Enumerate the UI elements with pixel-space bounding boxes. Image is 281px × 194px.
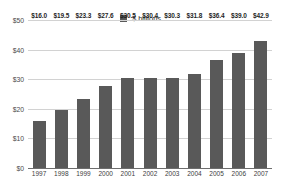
bar-value-label: $19.5 [53,12,69,19]
y-axis-tick-label: $30 [13,76,24,83]
bar-value-label: $16.0 [31,12,47,19]
x-axis-tick-label: 2007 [250,170,272,177]
y-axis-tick-label: $20 [13,105,24,112]
bar-value-label: $30.3 [164,12,180,19]
bar[interactable]: $36.4 [210,60,223,168]
x-axis-tick-label: 2001 [117,170,139,177]
bar-value-label: $31.8 [187,12,203,19]
bar[interactable]: $42.9 [254,41,267,168]
bar[interactable]: $30.5 [121,78,134,168]
plot-area: $0$10$20$30$40$50 $16.0$19.5$23.3$27.6$3… [28,20,272,168]
bar-chart: $ billions $0$10$20$30$40$50 $16.0$19.5$… [0,0,281,194]
bar-value-label: $27.6 [98,12,114,19]
bar[interactable]: $30.3 [166,78,179,168]
bar-slot: $30.5 [117,20,139,168]
bar-value-label: $42.9 [253,12,269,19]
bar[interactable]: $16.0 [33,121,46,168]
bar-value-label: $30.4 [142,12,158,19]
bar-slot: $39.0 [228,20,250,168]
bar[interactable]: $39.0 [232,53,245,168]
x-axis-tick-label: 2004 [183,170,205,177]
bar-slot: $23.3 [72,20,94,168]
bar-slot: $16.0 [28,20,50,168]
bar[interactable]: $30.4 [144,78,157,168]
bar-slot: $30.4 [139,20,161,168]
bar-slot: $42.9 [250,20,272,168]
y-axis-tick-label: $40 [13,46,24,53]
x-axis-tick-label: 1999 [72,170,94,177]
bar[interactable]: $27.6 [99,86,112,168]
bar[interactable]: $19.5 [55,110,68,168]
bar-slot: $31.8 [183,20,205,168]
y-axis-tick-label: $50 [13,17,24,24]
bar-value-label: $39.0 [231,12,247,19]
axis-baseline: $0 [28,168,272,169]
bar-value-label: $23.3 [76,12,92,19]
y-axis-tick-label: $10 [13,135,24,142]
bar-slot: $30.3 [161,20,183,168]
x-axis-tick-label: 1997 [28,170,50,177]
x-axis-tick-label: 2006 [228,170,250,177]
bar[interactable]: $31.8 [188,74,201,168]
bar-series-dollar-billions: $16.0$19.5$23.3$27.6$30.5$30.4$30.3$31.8… [28,20,272,168]
x-axis-tick-label: 2000 [95,170,117,177]
bar-slot: $19.5 [50,20,72,168]
x-axis-tick-labels: 1997199819992000200120022003200420052006… [28,170,272,177]
y-axis-tick-label: $0 [16,165,24,172]
bar-slot: $27.6 [95,20,117,168]
bar-value-label: $30.5 [120,12,136,19]
x-axis-tick-label: 2002 [139,170,161,177]
x-axis-tick-label: 2003 [161,170,183,177]
x-axis-tick-label: 1998 [50,170,72,177]
bar[interactable]: $23.3 [77,99,90,168]
x-axis-tick-label: 2005 [206,170,228,177]
bar-slot: $36.4 [206,20,228,168]
bar-value-label: $36.4 [209,12,225,19]
